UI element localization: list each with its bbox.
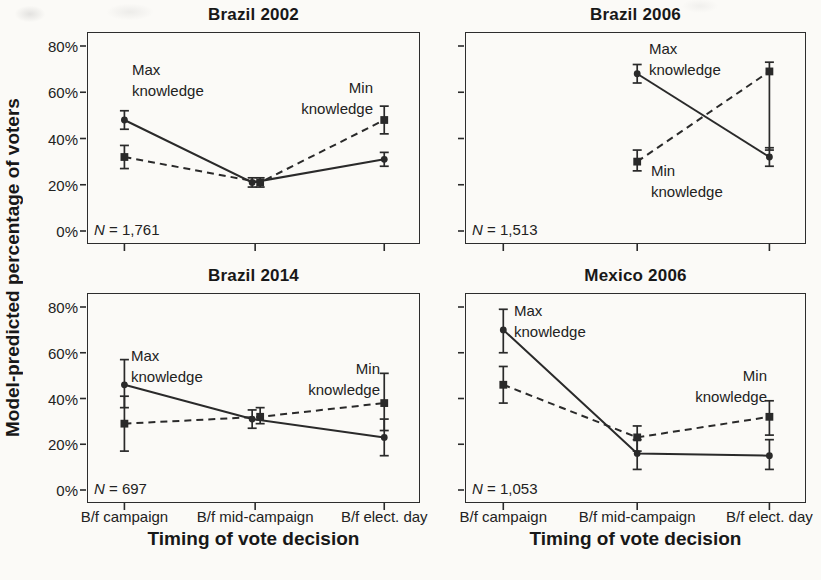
plot-brazil-2006: Max knowledgeMin knowledgeN = 1,513 <box>465 32 806 244</box>
min-knowledge-label: Min knowledge <box>301 77 373 119</box>
sample-size-variable: N <box>94 480 105 497</box>
y-tick-label: 40% <box>48 130 78 147</box>
min-knowledge-label: Min knowledge <box>308 358 380 400</box>
max-knowledge-label: Max knowledge <box>649 38 721 80</box>
y-tick-label: 20% <box>48 436 78 453</box>
min-knowledge-line <box>124 120 384 182</box>
min-knowledge-marker-square <box>380 399 388 407</box>
max-knowledge-label: Max knowledge <box>514 300 586 342</box>
chart-canvas-1 <box>466 33 805 243</box>
min-knowledge-marker-square <box>766 413 774 421</box>
x-tick-label: B/f elect. day <box>341 508 428 525</box>
min-knowledge-marker-square <box>256 179 264 187</box>
max-knowledge-marker-circle <box>121 381 128 388</box>
y-tick-label: 40% <box>48 390 78 407</box>
sample-size-value: = 1,761 <box>105 221 160 238</box>
sample-size-value: = 1,513 <box>483 221 538 238</box>
x-tick-label: B/f mid-campaign <box>197 508 314 525</box>
min-knowledge-label: Min knowledge <box>651 160 723 202</box>
figure-vote-timing-panels: Model-predicted percentage of voters Bra… <box>0 0 821 580</box>
min-knowledge-marker-square <box>766 68 774 76</box>
x-tick-label: B/f campaign <box>81 508 169 525</box>
x-axis-title-right: Timing of vote decision <box>465 528 806 550</box>
sample-size-label: N = 1,513 <box>472 221 537 238</box>
y-tick-label: 0% <box>56 223 78 240</box>
sample-size-variable: N <box>472 480 483 497</box>
sample-size-label: N = 1,761 <box>94 221 159 238</box>
sample-size-variable: N <box>94 221 105 238</box>
min-knowledge-marker-square <box>499 381 507 389</box>
plot-brazil-2002: 0%20%40%60%80%Max knowledgeMin knowledge… <box>87 32 420 244</box>
max-knowledge-marker-circle <box>634 70 641 77</box>
max-knowledge-line <box>637 74 769 157</box>
min-knowledge-marker-square <box>380 116 388 124</box>
panel-title-brazil-2002: Brazil 2002 <box>87 5 420 25</box>
min-knowledge-marker-square <box>256 413 264 421</box>
max-knowledge-marker-circle <box>766 452 773 459</box>
panel-brazil-2006: Brazil 2006 Max knowledgeMin knowledgeN … <box>465 32 806 244</box>
max-knowledge-line <box>124 120 384 182</box>
min-knowledge-label: Min knowledge <box>695 365 767 407</box>
plot-brazil-2014: 0%20%40%60%80%B/f campaignB/f mid-campai… <box>87 293 420 503</box>
error-bar <box>765 62 774 150</box>
y-tick-label: 60% <box>48 84 78 101</box>
sample-size-label: N = 1,053 <box>472 480 537 497</box>
sample-size-value: = 1,053 <box>483 480 538 497</box>
y-tick-label: 80% <box>48 299 78 316</box>
min-knowledge-marker-square <box>633 433 641 441</box>
sample-size-label: N = 697 <box>94 480 147 497</box>
max-knowledge-marker-circle <box>249 179 256 186</box>
max-knowledge-marker-circle <box>381 156 388 163</box>
x-tick-label: B/f elect. day <box>726 508 813 525</box>
y-axis-title: Model-predicted percentage of voters <box>1 32 25 503</box>
x-axis-title-left: Timing of vote decision <box>87 528 420 550</box>
panel-title-brazil-2006: Brazil 2006 <box>465 5 806 25</box>
y-tick-label: 80% <box>48 38 78 55</box>
panel-brazil-2002: Brazil 2002 0%20%40%60%80%Max knowledgeM… <box>87 32 420 244</box>
panel-brazil-2014: Brazil 2014 0%20%40%60%80%B/f campaignB/… <box>87 293 420 503</box>
min-knowledge-marker-square <box>633 158 641 166</box>
max-knowledge-marker-circle <box>500 326 507 333</box>
y-tick-label: 20% <box>48 176 78 193</box>
min-knowledge-marker-square <box>121 153 129 161</box>
max-knowledge-label: Max knowledge <box>132 59 204 101</box>
y-tick-label: 0% <box>56 482 78 499</box>
min-knowledge-marker-square <box>121 420 129 428</box>
y-tick-label: 60% <box>48 344 78 361</box>
panel-title-brazil-2014: Brazil 2014 <box>87 266 420 286</box>
plot-mexico-2006: B/f campaignB/f mid-campaignB/f elect. d… <box>465 293 806 503</box>
max-knowledge-marker-circle <box>121 117 128 124</box>
x-tick-label: B/f campaign <box>460 508 548 525</box>
max-knowledge-marker-circle <box>381 434 388 441</box>
sample-size-variable: N <box>472 221 483 238</box>
sample-size-value: = 697 <box>105 480 147 497</box>
x-tick-label: B/f mid-campaign <box>579 508 696 525</box>
max-knowledge-marker-circle <box>766 154 773 161</box>
max-knowledge-label: Max knowledge <box>131 345 203 387</box>
panel-title-mexico-2006: Mexico 2006 <box>465 266 806 286</box>
panel-mexico-2006: Mexico 2006 B/f campaignB/f mid-campaign… <box>465 293 806 503</box>
